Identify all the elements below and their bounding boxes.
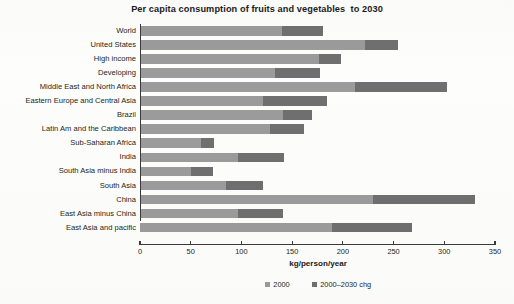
bar-segment-change: [275, 68, 320, 78]
stacked-bar: [140, 153, 500, 163]
bar-segment-2000: [140, 110, 283, 120]
bar-segment-change: [201, 138, 214, 148]
stacked-bar: [140, 181, 500, 191]
bar-segment-2000: [140, 153, 238, 163]
bar-segment-change: [365, 40, 397, 50]
bar-segment-2000: [140, 82, 355, 92]
x-axis-title: kg/person/year: [140, 259, 496, 268]
bar-row: South Asia: [0, 179, 514, 193]
x-tick: [494, 241, 495, 246]
stacked-bar: [140, 138, 500, 148]
chart-container: Per capita consumption of fruits and veg…: [0, 0, 514, 304]
bar-row: Middle East and North Africa: [0, 80, 514, 94]
bar-segment-change: [263, 96, 327, 106]
stacked-bar: [140, 68, 500, 78]
y-axis-line: [140, 24, 141, 221]
bar-row: China: [0, 193, 514, 207]
bar-row: Developing: [0, 66, 514, 80]
bar-segment-2000: [140, 195, 373, 205]
stacked-bar: [140, 26, 500, 36]
bar-segment-change: [355, 82, 447, 92]
bar-segment-change: [238, 209, 283, 219]
bar-row: High income: [0, 52, 514, 66]
legend-label: 2000–2030 chg: [320, 280, 371, 289]
chart-legend: 20002000–2030 chg: [140, 280, 496, 289]
x-tick: [139, 241, 140, 246]
bar-segment-change: [319, 54, 341, 64]
stacked-bar: [140, 195, 500, 205]
bar-segment-2000: [140, 96, 263, 106]
bar-segment-2000: [140, 26, 282, 36]
bar-rows: WorldUnited StatesHigh incomeDevelopingM…: [0, 24, 514, 235]
x-tick-label: 350: [489, 247, 501, 256]
legend-item[interactable]: 2000–2030 chg: [312, 280, 371, 289]
bar-segment-change: [238, 153, 284, 163]
category-label: Sub-Saharan Africa: [70, 136, 140, 150]
x-axis-line: [140, 244, 496, 245]
stacked-bar: [140, 223, 500, 233]
x-tick: [241, 241, 242, 246]
bar-row: South Asia minus India: [0, 164, 514, 178]
stacked-bar: [140, 82, 500, 92]
bar-row: World: [0, 24, 514, 38]
bar-row: Latin Am and the Caribbean: [0, 122, 514, 136]
bar-segment-2000: [140, 167, 191, 177]
chart-title: Per capita consumption of fruits and veg…: [0, 4, 514, 14]
category-label: India: [120, 150, 140, 164]
legend-swatch-icon: [312, 282, 317, 287]
stacked-bar: [140, 40, 500, 50]
bar-row: East Asia minus China: [0, 207, 514, 221]
bar-row: Eastern Europe and Central Asia: [0, 94, 514, 108]
category-label: Middle East and North Africa: [40, 80, 140, 94]
x-tick-label: 250: [387, 247, 399, 256]
bar-row: Sub-Saharan Africa: [0, 136, 514, 150]
x-tick: [444, 241, 445, 246]
x-tick: [393, 241, 394, 246]
stacked-bar: [140, 54, 500, 64]
stacked-bar: [140, 209, 500, 219]
stacked-bar: [140, 124, 500, 134]
category-label: China: [116, 193, 140, 207]
x-tick-label: 150: [286, 247, 298, 256]
bar-segment-change: [191, 167, 213, 177]
category-label: Developing: [98, 66, 140, 80]
bar-segment-2000: [140, 181, 226, 191]
stacked-bar: [140, 167, 500, 177]
x-tick: [190, 241, 191, 246]
x-tick: [292, 241, 293, 246]
category-label: Eastern Europe and Central Asia: [25, 94, 140, 108]
x-tick: [342, 241, 343, 246]
legend-item[interactable]: 2000: [265, 280, 290, 289]
category-label: Latin Am and the Caribbean: [42, 122, 140, 136]
bar-segment-2000: [140, 209, 238, 219]
bar-segment-2000: [140, 40, 365, 50]
bar-segment-2000: [140, 223, 332, 233]
x-tick-label: 200: [337, 247, 349, 256]
x-tick-label: 100: [235, 247, 247, 256]
bar-segment-change: [282, 26, 323, 36]
legend-label: 2000: [273, 280, 289, 289]
category-label: South Asia: [100, 179, 140, 193]
category-label: World: [116, 24, 140, 38]
bar-segment-2000: [140, 138, 201, 148]
bar-segment-change: [332, 223, 412, 233]
category-label: Brazil: [117, 108, 140, 122]
bar-segment-change: [373, 195, 474, 205]
bar-segment-change: [270, 124, 304, 134]
category-label: United States: [90, 38, 140, 52]
bar-row: East Asia and pacific: [0, 221, 514, 235]
x-tick-label: 50: [187, 247, 195, 256]
bar-row: United States: [0, 38, 514, 52]
bar-segment-change: [226, 181, 263, 191]
bar-segment-change: [283, 110, 312, 120]
stacked-bar: [140, 96, 500, 106]
bar-row: Brazil: [0, 108, 514, 122]
category-label: East Asia minus China: [60, 207, 140, 221]
category-label: South Asia minus India: [59, 164, 140, 178]
category-label: High income: [94, 52, 140, 66]
category-label: East Asia and pacific: [66, 221, 140, 235]
plot-area: WorldUnited StatesHigh incomeDevelopingM…: [0, 24, 514, 240]
x-tick-label: 300: [438, 247, 450, 256]
bar-row: India: [0, 150, 514, 164]
bar-segment-2000: [140, 68, 275, 78]
